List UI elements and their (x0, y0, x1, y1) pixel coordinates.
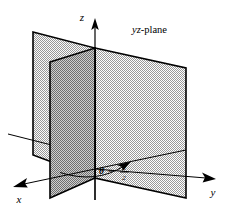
y-axis-label: y (210, 186, 216, 198)
fraction-numerator: π (122, 164, 126, 172)
yz-plane-label-italic-part: yz (131, 24, 141, 35)
yz-plane-label-suffix: -plane (141, 24, 168, 35)
theta-symbol: θ (99, 166, 104, 176)
fraction-denominator: 2 (122, 174, 126, 182)
figure-container: z x y yz-plane θ = π 2 (0, 0, 232, 213)
z-axis-label: z (79, 11, 85, 23)
x-axis-arrowhead (13, 178, 28, 188)
equals-sign: = (108, 166, 113, 176)
x-axis-label: x (16, 193, 22, 205)
yz-plane-label: yz-plane (131, 24, 167, 35)
figure-svg: z x y yz-plane θ = π 2 (0, 0, 232, 213)
